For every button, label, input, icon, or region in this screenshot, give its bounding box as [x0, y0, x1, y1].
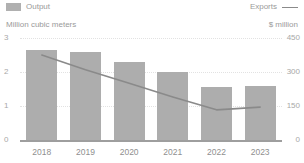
left-axis-tick: 0: [4, 135, 8, 145]
right-axis-tick: 150: [280, 101, 300, 111]
bar-slot: [201, 30, 232, 140]
plot-area: 34502300115000: [0, 33, 304, 143]
right-axis-tick: 300: [280, 67, 300, 77]
line-swatch-icon: [282, 7, 298, 8]
right-axis-tick: 450: [280, 33, 300, 43]
chart-legend: Output Exports: [0, 2, 304, 16]
bar[interactable]: [245, 86, 276, 140]
x-axis-label: 2020: [107, 146, 151, 158]
x-axis-labels: 201820192020202120222023: [20, 146, 282, 160]
bar-slot: [245, 30, 276, 140]
bar-slot: [26, 30, 57, 140]
chart-container: Output Exports Million cubic meters $ mi…: [0, 0, 304, 163]
legend-item-exports[interactable]: Exports: [250, 2, 298, 12]
x-axis-label: 2021: [151, 146, 195, 158]
x-axis-baseline: [20, 140, 282, 142]
right-axis-unit-label: $ million: [269, 20, 298, 30]
left-axis-tick: 2: [4, 67, 8, 77]
bar[interactable]: [157, 72, 188, 140]
bar[interactable]: [201, 87, 232, 140]
x-axis-label: 2019: [64, 146, 108, 158]
bar[interactable]: [26, 50, 57, 140]
x-axis-label: 2022: [195, 146, 239, 158]
legend-item-output[interactable]: Output: [6, 2, 50, 12]
bar[interactable]: [114, 62, 145, 140]
right-axis-tick: 0: [280, 135, 300, 145]
bar-slot: [114, 30, 145, 140]
legend-label-exports: Exports: [250, 2, 277, 12]
bars-group: [20, 33, 282, 143]
bar-slot: [157, 30, 188, 140]
bar-swatch-icon: [6, 3, 21, 11]
left-axis-tick: 1: [4, 101, 8, 111]
x-axis-label: 2018: [20, 146, 64, 158]
left-axis-unit-label: Million cubic meters: [6, 20, 76, 30]
left-axis-tick: 3: [4, 33, 8, 43]
legend-label-output: Output: [26, 2, 50, 12]
bar-slot: [70, 30, 101, 140]
x-axis-label: 2023: [238, 146, 282, 158]
bar[interactable]: [70, 52, 101, 140]
